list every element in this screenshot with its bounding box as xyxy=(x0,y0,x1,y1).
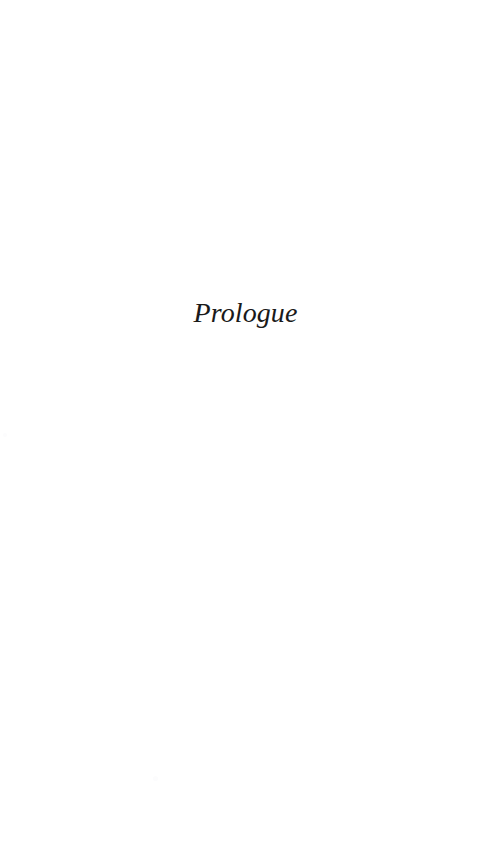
book-page: Prologue xyxy=(0,0,499,851)
page-title: Prologue xyxy=(0,296,499,330)
page-text-block: Prologue xyxy=(0,0,499,851)
